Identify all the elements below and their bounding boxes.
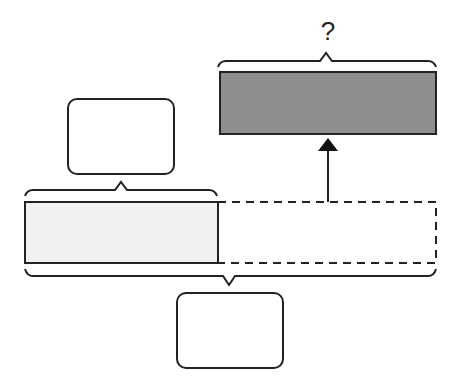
result-bar xyxy=(220,72,436,134)
tape-diagram xyxy=(0,0,449,383)
arrow-up-icon xyxy=(318,138,338,151)
total-box[interactable] xyxy=(177,293,283,368)
top-brace xyxy=(218,53,436,67)
known-bar xyxy=(25,202,218,263)
left-brace xyxy=(25,182,217,196)
unknown-extension-dashed xyxy=(218,202,436,263)
bottom-brace xyxy=(25,269,436,285)
known-part-box[interactable] xyxy=(68,99,174,174)
unknown-question-label: ? xyxy=(316,16,340,46)
